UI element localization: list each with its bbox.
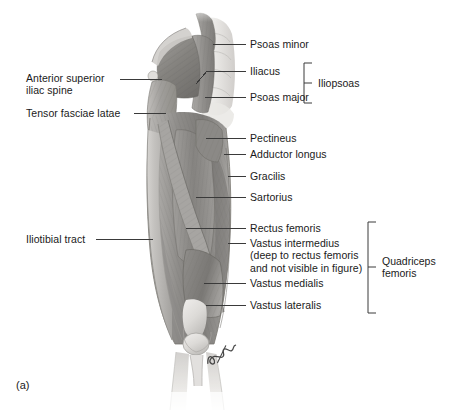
label-pectineus: Pectineus bbox=[250, 132, 297, 144]
label-gracilis: Gracilis bbox=[250, 170, 285, 182]
group-brackets bbox=[304, 63, 376, 313]
group-label-iliopsoas: Iliopsoas bbox=[318, 77, 359, 89]
label-tensor-fasciae-latae: Tensor fasciae latae bbox=[26, 107, 120, 119]
anatomy-figure: Psoas minor Iliacus Psoas major Pectineu… bbox=[0, 0, 453, 419]
illustration-body bbox=[140, 0, 250, 419]
label-vastus-intermedius: Vastus intermedius (deep to rectus femor… bbox=[250, 237, 362, 274]
label-adductor-longus: Adductor longus bbox=[250, 148, 327, 160]
label-vastus-lateralis: Vastus lateralis bbox=[250, 299, 321, 311]
label-sartorius: Sartorius bbox=[250, 191, 292, 203]
label-psoas-minor: Psoas minor bbox=[250, 38, 309, 50]
label-iliacus: Iliacus bbox=[250, 65, 280, 77]
label-anterior-superior-iliac-spine: Anterior superior iliac spine bbox=[26, 72, 104, 97]
label-vastus-medialis: Vastus medialis bbox=[250, 277, 324, 289]
label-rectus-femoris: Rectus femoris bbox=[250, 222, 321, 234]
figure-caption: (a) bbox=[16, 379, 29, 391]
hip-thigh-muscles-illustration bbox=[0, 0, 453, 419]
group-label-quadriceps-femoris: Quadriceps femoris bbox=[382, 255, 436, 280]
label-iliotibial-tract: Iliotibial tract bbox=[26, 233, 85, 245]
label-psoas-major: Psoas major bbox=[250, 91, 309, 103]
